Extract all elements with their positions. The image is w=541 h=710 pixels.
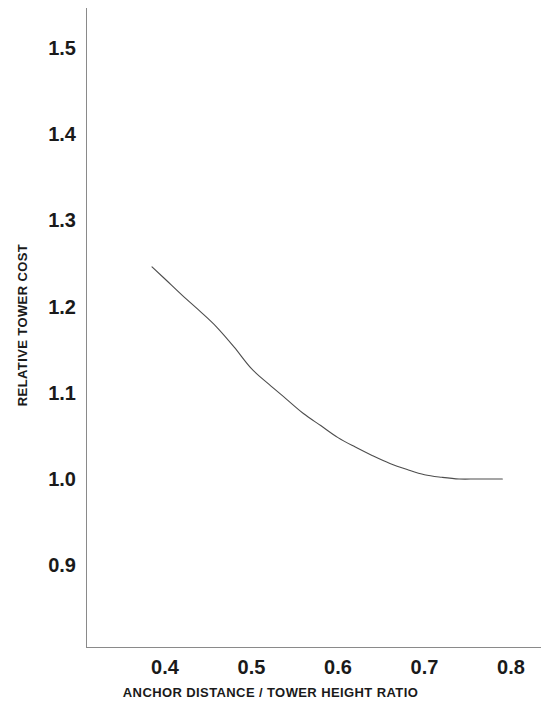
x-axis-title: ANCHOR DISTANCE / TOWER HEIGHT RATIO xyxy=(0,686,541,700)
data-line-relative-tower-cost xyxy=(152,267,502,479)
plot-curve-layer xyxy=(0,0,541,710)
chart-figure: 0.91.01.11.21.31.41.5 0.40.50.60.70.8 RE… xyxy=(0,0,541,710)
y-axis-title: RELATIVE TOWER COST xyxy=(16,225,30,425)
